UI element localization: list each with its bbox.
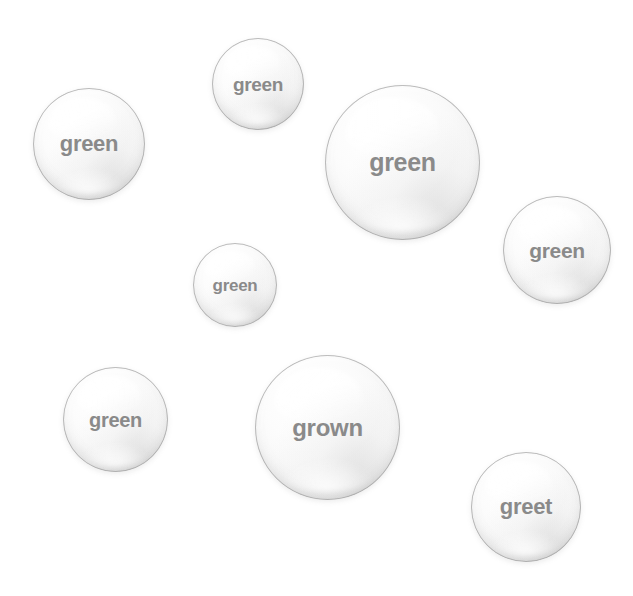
bubble-word-label: green xyxy=(213,277,258,294)
bubble-word-label: green xyxy=(60,133,118,155)
bubble-large-bottom-grown[interactable]: grown xyxy=(255,355,400,500)
bubble-bounce-light-icon xyxy=(82,443,149,466)
bubble-word-label: greet xyxy=(500,496,552,518)
bubble-bounce-light-icon xyxy=(208,304,262,322)
bubble-top-left-green[interactable]: green xyxy=(33,88,145,200)
bubble-large-right-green[interactable]: green xyxy=(325,85,480,240)
bubble-right-green[interactable]: green xyxy=(503,196,611,304)
bubble-bounce-light-icon xyxy=(229,104,288,124)
bubble-word-label: green xyxy=(89,410,142,430)
bubble-canvas: greengreengreengreengreengreengrowngreet xyxy=(0,0,633,596)
bubble-bounce-light-icon xyxy=(491,531,561,555)
bubble-lower-left-green[interactable]: green xyxy=(63,367,168,472)
bubble-word-label: green xyxy=(233,75,283,94)
bubble-bottom-right-greet[interactable]: greet xyxy=(471,452,581,562)
bubble-bounce-light-icon xyxy=(281,459,374,491)
bubble-bounce-light-icon xyxy=(353,197,452,231)
bubble-word-label: green xyxy=(529,240,585,261)
bubble-bounce-light-icon xyxy=(522,274,591,298)
bubble-top-green[interactable]: green xyxy=(212,38,304,130)
bubble-word-label: green xyxy=(369,150,436,175)
bubble-word-label: grown xyxy=(292,416,363,440)
bubble-bounce-light-icon xyxy=(53,169,125,194)
bubble-small-center-green[interactable]: green xyxy=(193,243,277,327)
